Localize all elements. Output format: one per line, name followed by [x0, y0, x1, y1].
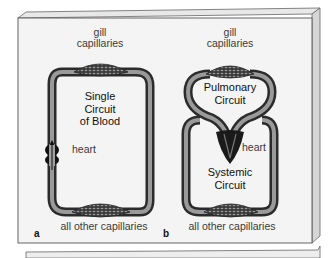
title-line: Single [70, 90, 130, 103]
panel-a-gill-label: gill capillaries [70, 27, 130, 49]
panel-a-heart-label: heart [72, 144, 96, 155]
circuit-text: Circuit [198, 94, 262, 107]
diagram-canvas [0, 0, 336, 258]
circulation-diagram: gill capillaries Single Circuit of Blood… [0, 0, 336, 258]
capillaries-text: capillaries [70, 38, 130, 49]
panel-b-pulmonary-label: Pulmonary Circuit [198, 81, 262, 106]
panel-b-systemic-label: Systemic Circuit [200, 166, 260, 191]
panel-b-body-capillaries-label: all other capillaries [184, 221, 280, 232]
pulmonary-text: Pulmonary [198, 81, 262, 94]
panel-b-heart-label: heart [242, 142, 266, 153]
title-line: Circuit [70, 103, 130, 116]
title-line: of Blood [70, 115, 130, 128]
panel-b-letter: b [163, 228, 169, 239]
circuit-text: Circuit [200, 179, 260, 192]
panel-a-title: Single Circuit of Blood [70, 90, 130, 128]
systemic-text: Systemic [200, 166, 260, 179]
next-board-edge [26, 246, 320, 258]
panel-b-gill-label: gill capillaries [200, 27, 260, 49]
panel-a-body-capillaries-label: all other capillaries [56, 221, 152, 232]
capillaries-text: capillaries [200, 38, 260, 49]
panel-a-letter: a [34, 228, 40, 239]
